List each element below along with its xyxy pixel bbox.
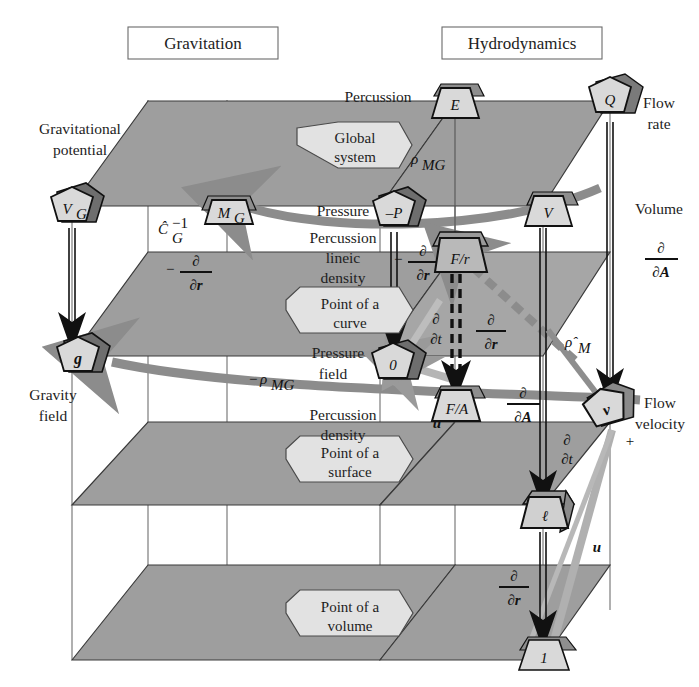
- svg-text:∂r: ∂r: [189, 277, 202, 293]
- operator-partial-dA-right: ∂ ∂A: [645, 240, 678, 280]
- connector-rhoM-to-v: [548, 330, 600, 398]
- label-percussion-density-line2: density: [321, 426, 366, 443]
- svg-text:+: +: [626, 433, 634, 449]
- svg-text:−: −: [249, 371, 257, 387]
- svg-text:∂r: ∂r: [484, 336, 497, 352]
- svg-text:∂: ∂: [657, 240, 664, 256]
- svg-text:MG: MG: [270, 377, 294, 393]
- svg-text:∂: ∂: [419, 243, 426, 259]
- hexagon-global-system-line2: system: [334, 149, 376, 165]
- node-F_over_r[interactable]: F/r: [433, 232, 488, 272]
- label-percussion-lineic-density-line2: lineic: [326, 249, 361, 266]
- node-M_G-label: M: [217, 205, 232, 221]
- node-M_G-sub: G: [234, 210, 245, 226]
- node-F_over_A-label: F/A: [445, 401, 469, 417]
- title-right-label: Hydrodynamics: [468, 34, 577, 53]
- label-flow-velocity-line1: Flow: [644, 394, 677, 411]
- label-gravity-field-line1: Gravity: [29, 386, 77, 403]
- label-percussion-top-line1: Percussion: [344, 88, 411, 105]
- node-Q-label: Q: [605, 92, 616, 108]
- svg-text:MG: MG: [421, 157, 445, 173]
- operator-u-right: u: [593, 539, 601, 555]
- hexagon-global-system-line1: Global: [335, 130, 376, 146]
- label-pressure-field-line2: field: [319, 365, 348, 382]
- label-flow-velocity-line2: velocity: [635, 415, 685, 432]
- operator-C-G-inverse: Ĉ −1 G: [158, 215, 188, 246]
- node-minusP-label: –P: [385, 205, 403, 221]
- label-volume: Volume: [635, 200, 683, 217]
- svg-text:∂t: ∂t: [561, 451, 573, 467]
- svg-text:∂: ∂: [510, 568, 517, 584]
- hexagon-point-of-a-volume-line1: Point of a: [321, 599, 380, 615]
- svg-text:ρ: ρ: [259, 371, 267, 387]
- svg-text:−: −: [166, 261, 174, 277]
- label-pressure: Pressure: [317, 202, 370, 219]
- title-box-hydrodynamics: Hydrodynamics: [442, 27, 602, 59]
- label-percussion-lineic-density-line1: Percussion: [309, 229, 376, 246]
- node-one[interactable]: 1: [519, 637, 576, 670]
- svg-text:ρ: ρ: [410, 151, 418, 167]
- svg-text:∂: ∂: [432, 311, 439, 327]
- node-V_G-sub: G: [76, 206, 87, 222]
- label-flow-rate-line1: Flow: [643, 94, 676, 111]
- node-F_over_A[interactable]: F/A: [432, 386, 485, 421]
- hexagon-point-of-a-volume[interactable]: Point of a volume: [286, 590, 413, 636]
- label-gravitational-potential: Gravitational potential: [39, 120, 121, 158]
- title-left-label: Gravitation: [164, 34, 242, 53]
- diagram-canvas: Gravitation Hydrodynamics Global system …: [0, 0, 699, 687]
- node-g-label: g: [73, 350, 82, 368]
- hexagon-point-of-a-surface-line2: surface: [328, 464, 372, 480]
- label-flow-velocity: Flow velocity: [635, 394, 685, 432]
- svg-text:∂A: ∂A: [652, 264, 669, 280]
- svg-text:∂: ∂: [487, 312, 494, 328]
- svg-text:∂: ∂: [519, 385, 526, 401]
- svg-text:M: M: [577, 340, 592, 356]
- diagram-svg: Gravitation Hydrodynamics Global system …: [0, 0, 699, 687]
- hexagon-point-of-a-surface-line1: Point of a: [321, 445, 380, 461]
- svg-text:G: G: [172, 230, 183, 246]
- hexagon-point-of-a-curve[interactable]: Point of a curve: [286, 287, 413, 333]
- node-one-label: 1: [540, 650, 548, 666]
- label-pressure-field: Pressure field: [312, 344, 365, 382]
- svg-text:∂: ∂: [192, 253, 199, 269]
- svg-text:−1: −1: [172, 215, 188, 231]
- node-ell-label: ℓ: [542, 508, 548, 524]
- svg-text:∂t: ∂t: [430, 331, 442, 347]
- node-ell[interactable]: ℓ: [521, 491, 574, 532]
- svg-text:ρ̂: ρ̂: [564, 334, 578, 350]
- label-volume-line1: Volume: [635, 200, 683, 217]
- svg-text:∂r: ∂r: [416, 267, 429, 283]
- label-gravity-field: Gravity field: [29, 386, 77, 424]
- svg-text:∂r: ∂r: [507, 592, 520, 608]
- label-percussion-lineic-density-line3: density: [321, 269, 366, 286]
- hexagon-point-of-a-curve-line1: Point of a: [321, 296, 380, 312]
- node-M_G[interactable]: M G: [202, 196, 256, 226]
- svg-text:∂: ∂: [563, 432, 570, 448]
- label-pressure-line1: Pressure: [317, 202, 370, 219]
- hexagon-point-of-a-curve-line2: curve: [333, 315, 367, 331]
- label-gravitational-potential-line1: Gravitational: [39, 120, 121, 137]
- node-V[interactable]: V: [525, 192, 578, 226]
- label-pressure-field-line1: Pressure: [312, 344, 365, 361]
- label-percussion-density-line1: Percussion: [309, 406, 376, 423]
- label-percussion-top: Percussion: [344, 88, 411, 105]
- operator-plus: +: [626, 433, 634, 449]
- svg-text:u: u: [593, 539, 601, 555]
- label-gravitational-potential-line2: potential: [53, 141, 107, 158]
- svg-text:−: −: [394, 251, 402, 267]
- hexagon-point-of-a-volume-line2: volume: [328, 618, 373, 634]
- node-E-label: E: [449, 97, 459, 113]
- svg-text:∂A: ∂A: [514, 409, 531, 425]
- label-flow-rate-line2: rate: [647, 115, 670, 132]
- label-gravity-field-line2: field: [39, 407, 68, 424]
- operator-rho-MG-negative: − ρ MG: [249, 371, 294, 393]
- label-flow-rate: Flow rate: [643, 94, 676, 132]
- svg-text:Ĉ: Ĉ: [158, 221, 169, 237]
- title-box-gravitation: Gravitation: [128, 27, 278, 59]
- node-zero-label: 0: [389, 357, 397, 373]
- node-F_over_r-label: F/r: [449, 251, 469, 267]
- node-Q[interactable]: Q: [589, 74, 643, 113]
